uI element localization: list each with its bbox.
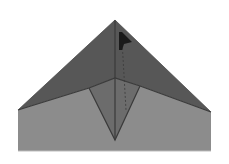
origami-diagram [0, 0, 229, 164]
diagram-figure [0, 0, 229, 164]
